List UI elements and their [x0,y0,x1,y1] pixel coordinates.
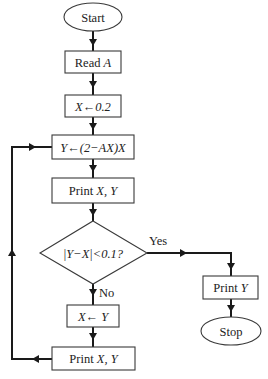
node-label: Stop [220,325,243,339]
arrow-up-icon [8,249,16,256]
node-label: Read A [75,56,112,70]
node-label: |Y−X|<0.1? [63,247,124,261]
arrow-right-icon [180,249,187,257]
edge-label-no: No [99,286,114,300]
arrow-down-icon [89,81,97,88]
arrow-right-icon [29,143,36,151]
node-label: Print X, Y [69,184,119,198]
node-label: Y←(2−AX)X [60,141,127,155]
arrow-down-icon [89,123,97,130]
arrow-down-icon [89,165,97,172]
node-compute-y: Y←(2−AX)X [52,135,134,159]
flowchart: Start Read A X←0.2 Y←(2−AX)X Print X, Y … [0,0,268,379]
arrow-down-icon [89,289,97,296]
node-label: X←0.2 [74,100,111,114]
arrow-down-icon [227,263,235,270]
node-decision: |Y−X|<0.1? [40,221,147,284]
node-label: X← Y [77,310,110,324]
node-label: Print Y [213,281,249,295]
arrow-down-icon [89,333,97,340]
node-print-xy-2: Print X, Y [52,347,135,370]
edge-label-yes: Yes [149,234,167,248]
node-init-x: X←0.2 [65,95,121,117]
node-read-a: Read A [65,51,121,73]
arrow-down-icon [227,305,235,312]
node-start: Start [64,3,122,31]
node-stop: Stop [201,317,261,345]
node-label: Start [81,11,105,25]
node-label: Print X, Y [69,352,119,366]
arrow-down-icon [89,209,97,216]
node-print-xy-1: Print X, Y [52,178,134,203]
node-print-y: Print Y [203,276,258,299]
node-assign-x: X← Y [67,305,119,327]
edge-decision-yes [147,253,231,276]
arrow-left-icon [32,355,39,363]
arrow-down-icon [89,39,97,46]
